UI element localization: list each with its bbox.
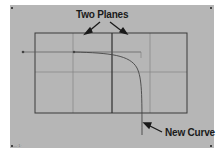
grid-lines: [35, 33, 187, 113]
control-point: [22, 51, 25, 54]
arrow-icon: [144, 123, 162, 132]
axis-indicator: —·1·: [13, 143, 22, 148]
arrow-icon: [110, 22, 127, 34]
arrow-icon: [85, 22, 100, 34]
two-planes-label: Two Planes: [76, 9, 128, 20]
new-curve-label: New Curve: [165, 127, 215, 138]
new-curve: [74, 52, 142, 135]
plane-rectangle: [35, 33, 187, 113]
corner-marker: [210, 7, 212, 9]
corner-marker: [210, 145, 212, 147]
corner-marker: [11, 7, 13, 9]
